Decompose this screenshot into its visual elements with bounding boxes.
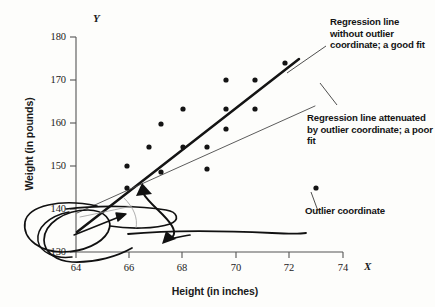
- data-point: [180, 106, 185, 111]
- x-tick-label-68: 68: [169, 262, 195, 273]
- data-point: [180, 144, 185, 149]
- data-point: [282, 60, 287, 65]
- data-point: [252, 77, 257, 82]
- y-tick-label-130: 130: [40, 246, 66, 257]
- data-point: [223, 126, 228, 131]
- y-tick-label-140: 140: [40, 203, 66, 214]
- y-tick-label-180: 180: [40, 31, 66, 42]
- callout-outlier: Outlier coordinate: [305, 205, 425, 217]
- y-tick-label-170: 170: [40, 74, 66, 85]
- ink-baseline-stroke: [128, 231, 306, 234]
- y-tick-label-160: 160: [40, 117, 66, 128]
- regression-line-poor-fit: [77, 106, 315, 213]
- data-point: [124, 163, 129, 168]
- ink-arrow-to-y-label: [74, 215, 124, 235]
- x-axis-title: Height (in inches): [110, 285, 320, 297]
- data-point: [158, 121, 163, 126]
- leader-line-poor-fit: [320, 83, 337, 105]
- data-point: [158, 169, 163, 174]
- axis-lines: [76, 37, 343, 252]
- leader-line-good-fit: [287, 46, 326, 73]
- outlier-point: [313, 185, 318, 190]
- data-point: [204, 166, 209, 171]
- y-tick-label-150: 150: [40, 160, 66, 171]
- data-point: [124, 185, 129, 190]
- callout-good-fit: Regression line without outlier coordina…: [330, 16, 434, 51]
- ink-faint-arc: [124, 198, 137, 228]
- y-axis-letter: Y: [93, 12, 100, 24]
- hand-drawn-annotations: [25, 183, 306, 262]
- x-tick-label-66: 66: [116, 262, 142, 273]
- data-point: [223, 77, 228, 82]
- data-point: [223, 106, 228, 111]
- x-tick-label-70: 70: [223, 262, 249, 273]
- x-tick-label-72: 72: [276, 262, 302, 273]
- data-point: [146, 144, 151, 149]
- x-tick-label-74: 74: [330, 262, 356, 273]
- callout-poor-fit: Regression line attenuated by outlier co…: [307, 112, 435, 147]
- y-axis-title: Weight (in pounds): [23, 69, 35, 219]
- y-axis-ticks: [70, 37, 76, 252]
- x-tick-label-64: 64: [63, 262, 89, 273]
- data-point: [204, 144, 209, 149]
- ink-arrowhead-right: [116, 213, 126, 221]
- data-point: [252, 106, 257, 111]
- x-axis-letter: X: [364, 260, 371, 272]
